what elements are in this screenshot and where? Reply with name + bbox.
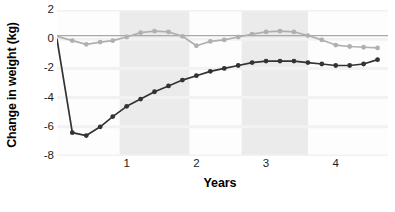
y-tick-label-2: 2 xyxy=(32,4,54,16)
data-point-control-group-13 xyxy=(236,35,241,40)
plot-area xyxy=(57,10,388,156)
data-point-control-group-10 xyxy=(194,43,199,48)
data-point-control-group-12 xyxy=(222,38,227,43)
data-point-control-group-17 xyxy=(292,30,297,35)
data-point-surgery-group-9 xyxy=(180,78,185,83)
data-point-control-group-23 xyxy=(375,46,380,51)
y-axis-title-text: Change in weight (kg) xyxy=(5,22,19,148)
data-point-control-group-15 xyxy=(264,30,269,35)
data-point-control-group-3 xyxy=(98,40,103,45)
data-point-surgery-group-20 xyxy=(333,63,338,68)
data-point-surgery-group-3 xyxy=(98,124,103,129)
data-point-surgery-group-17 xyxy=(292,59,297,64)
data-point-control-group-19 xyxy=(319,38,324,43)
series-lines xyxy=(57,31,378,135)
data-point-surgery-group-5 xyxy=(124,104,129,109)
series-line-surgery-group xyxy=(57,39,378,135)
data-point-surgery-group-6 xyxy=(138,97,143,102)
data-point-surgery-group-2 xyxy=(84,133,89,138)
data-point-control-group-14 xyxy=(250,32,255,37)
x-axis-tick-labels: 1234 xyxy=(0,158,395,174)
x-tick-label-2: 2 xyxy=(193,158,199,170)
data-point-surgery-group-14 xyxy=(250,60,255,65)
data-point-surgery-group-4 xyxy=(110,114,115,119)
series-markers xyxy=(70,29,380,138)
x-tick-label-3: 3 xyxy=(263,158,269,170)
data-point-control-group-22 xyxy=(361,45,366,50)
data-point-control-group-4 xyxy=(110,38,115,43)
data-point-surgery-group-11 xyxy=(208,69,213,74)
data-point-control-group-18 xyxy=(305,33,310,38)
y-tick-label--2: -2 xyxy=(32,63,54,75)
data-point-control-group-1 xyxy=(70,38,75,43)
data-point-surgery-group-22 xyxy=(361,62,366,67)
data-point-surgery-group-8 xyxy=(166,84,171,89)
data-point-control-group-6 xyxy=(138,30,143,35)
data-point-surgery-group-18 xyxy=(305,60,310,65)
y-tick-label-0: 0 xyxy=(32,33,54,45)
data-point-surgery-group-19 xyxy=(319,62,324,67)
data-point-control-group-2 xyxy=(84,42,89,47)
data-point-surgery-group-23 xyxy=(375,57,380,62)
data-point-control-group-21 xyxy=(347,44,352,49)
x-tick-label-4: 4 xyxy=(333,158,339,170)
data-point-surgery-group-1 xyxy=(70,130,75,135)
data-point-surgery-group-13 xyxy=(236,63,241,68)
data-point-surgery-group-12 xyxy=(222,66,227,71)
gridlines xyxy=(57,10,388,156)
data-point-control-group-8 xyxy=(166,30,171,35)
data-point-surgery-group-10 xyxy=(194,73,199,78)
y-tick-label--4: -4 xyxy=(32,92,54,104)
y-tick-label--6: -6 xyxy=(32,121,54,133)
data-point-control-group-20 xyxy=(333,43,338,48)
data-point-surgery-group-7 xyxy=(152,89,157,94)
data-point-control-group-5 xyxy=(124,35,129,40)
data-point-control-group-11 xyxy=(208,39,213,44)
data-point-surgery-group-21 xyxy=(347,63,352,68)
y-axis-title: Change in weight (kg) xyxy=(0,0,24,170)
data-point-control-group-7 xyxy=(152,29,157,34)
data-point-control-group-16 xyxy=(278,29,283,34)
x-axis-title: Years xyxy=(55,176,385,190)
x-tick-label-1: 1 xyxy=(123,158,129,170)
plot-svg xyxy=(57,10,388,156)
data-point-surgery-group-16 xyxy=(278,59,283,64)
data-point-control-group-9 xyxy=(180,34,185,39)
y-axis-tick-labels: 20-2-4-6-8 xyxy=(24,0,54,212)
data-point-surgery-group-15 xyxy=(264,59,269,64)
weight-change-line-chart: Change in weight (kg) 20-2-4-6-8 1234 Ye… xyxy=(0,0,395,212)
